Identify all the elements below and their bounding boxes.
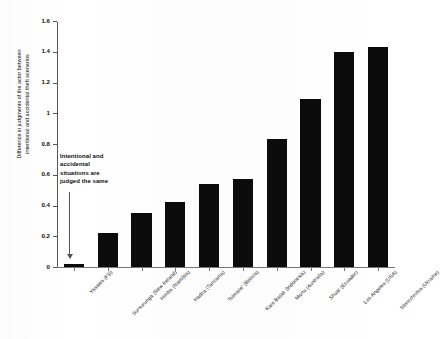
- y-tick-label: 1.4: [41, 47, 50, 54]
- y-tick: 1.6: [53, 21, 57, 22]
- bar: [131, 213, 151, 267]
- annotation-line-1: Intentional and: [60, 152, 122, 160]
- bar: [334, 52, 354, 267]
- y-tick-label: 0.2: [41, 232, 50, 239]
- x-axis-label: Hadza (Tanzania): [192, 269, 226, 303]
- y-tick-label: 0: [47, 263, 50, 270]
- y-tick: 1: [53, 113, 57, 114]
- y-tick-label: 0.4: [41, 201, 50, 208]
- y-tick-label: 1.6: [41, 17, 50, 24]
- y-tick: 1.4: [53, 52, 57, 53]
- y-tick-label: 1.2: [41, 78, 50, 85]
- x-axis-label: Yasawa (Fiji): [88, 269, 114, 295]
- x-axis-label: Shuar (Ecuador): [327, 269, 359, 301]
- y-tick: 1.2: [53, 83, 57, 84]
- y-axis-title: Difference in judgments of the actor bet…: [15, 9, 31, 199]
- y-tick-label: 0.8: [41, 140, 50, 147]
- y-tick: 0: [53, 267, 57, 268]
- y-tick: 0.8: [53, 144, 57, 145]
- annotation-text: Intentional and accidental situations ar…: [60, 152, 122, 186]
- bar: [267, 139, 287, 267]
- bar: [165, 202, 185, 267]
- annotation-line-4: judged the same: [60, 177, 122, 185]
- plot-area: 00.20.40.60.811.21.41.6: [57, 22, 395, 268]
- annotation-line-3: situations are: [60, 169, 122, 177]
- bar: [199, 184, 219, 267]
- y-tick: 0.6: [53, 175, 57, 176]
- x-axis-label: Tsimane' (Bolivia): [226, 269, 260, 303]
- bar: [368, 47, 388, 267]
- annotation-arrow-icon: [69, 192, 70, 258]
- bar: [98, 233, 118, 267]
- bar: [300, 99, 320, 267]
- y-tick-label: 0.6: [41, 170, 50, 177]
- y-tick: 0.2: [53, 236, 57, 237]
- x-axis-category-labels: Yasawa (Fiji)Sursurunga (New Ireland)Him…: [57, 269, 395, 339]
- y-axis-line: [57, 22, 58, 268]
- y-tick-label: 1: [47, 109, 50, 116]
- annotation-line-2: accidental: [60, 160, 122, 168]
- x-axis-label: Los Angeles (USA): [362, 269, 398, 305]
- y-tick: 0.4: [53, 206, 57, 207]
- bar: [233, 179, 253, 267]
- bar: [64, 264, 84, 267]
- x-axis-label: Storozhnitsa (Ukraine): [399, 269, 440, 311]
